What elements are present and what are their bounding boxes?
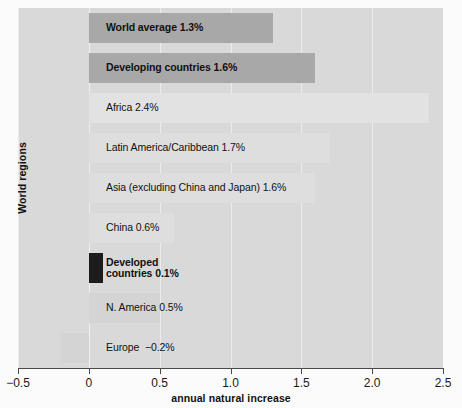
bar-row: Africa 2.4% [18,88,443,128]
bar-row: China 0.6% [18,208,443,248]
x-tick-label: 1.5 [293,376,310,390]
x-tick [301,368,302,374]
x-tick-label: 1.0 [222,376,239,390]
x-tick [372,368,373,374]
bar-label: World average 1.3% [106,22,203,34]
bar [89,253,103,283]
bar-label: Developedcountries 0.1% [106,257,179,280]
bar-label-line: Developing countries 1.6% [106,62,237,74]
bar-row: Developing countries 1.6% [18,48,443,88]
plot-area: World average 1.3%Developing countries 1… [18,8,443,368]
bar-label-line: N. America 0.5% [106,302,183,314]
x-tick [231,368,232,374]
bar-label-line: Latin America/Caribbean 1.7% [106,142,245,154]
bar-label-line: Africa 2.4% [106,102,159,114]
y-axis-title: World regions [16,123,28,233]
bar-label-line: World average 1.3% [106,22,203,34]
x-tick-label: 2.0 [364,376,381,390]
bar-row: Europe −0.2% [18,328,443,368]
bar [61,333,89,363]
x-tick-label: 2.5 [435,376,452,390]
bar-row: N. America 0.5% [18,288,443,328]
bar-label: Asia (excluding China and Japan) 1.6% [106,182,286,194]
bar-label-line: Asia (excluding China and Japan) 1.6% [106,182,286,194]
bar-label: China 0.6% [106,222,159,234]
x-tick [443,368,444,374]
x-tick [18,368,19,374]
x-tick-label: 0.5 [151,376,168,390]
bar-label-line: countries 0.1% [106,268,179,280]
bar-label: Latin America/Caribbean 1.7% [106,142,245,154]
x-tick [89,368,90,374]
x-tick [160,368,161,374]
bar-label: N. America 0.5% [106,302,183,314]
bar-label: Africa 2.4% [106,102,159,114]
bar-row: World average 1.3% [18,8,443,48]
bar-label-line: China 0.6% [106,222,159,234]
x-axis-title: annual natural increase [0,392,462,404]
bar-label-line: Europe −0.2% [106,342,174,354]
bar-row: Developedcountries 0.1% [18,248,443,288]
bar-label: Developing countries 1.6% [106,62,237,74]
bar-label: Europe −0.2% [106,342,174,354]
x-tick-label: 0 [85,376,92,390]
chart-page: World average 1.3%Developing countries 1… [0,0,462,408]
bar-row: Latin America/Caribbean 1.7% [18,128,443,168]
bar-row: Asia (excluding China and Japan) 1.6% [18,168,443,208]
x-tick-label: −0.5 [6,376,30,390]
